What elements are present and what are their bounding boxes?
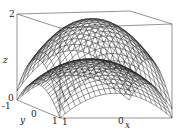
z-axis-label: z (3, 56, 8, 65)
mesh-line (124, 79, 167, 114)
x-tick-1: 1 (62, 118, 68, 127)
mesh-line (17, 59, 60, 109)
y-axis-label: y (20, 116, 25, 125)
x-axis-label: x (125, 121, 130, 130)
mesh-line (27, 75, 70, 110)
mesh-line (60, 93, 172, 118)
y-tick-1: 1 (52, 117, 58, 126)
wireframe-mesh (17, 19, 172, 119)
mesh-line (21, 39, 133, 79)
y-tick-0: 0 (31, 110, 37, 119)
x-tick-0: 0 (118, 117, 124, 126)
mesh-line (17, 83, 60, 118)
mesh-line (22, 79, 65, 114)
surface-plot (0, 0, 177, 130)
y-tick-neg1: -1 (2, 102, 11, 111)
z-tick-2: 2 (9, 10, 15, 19)
mesh-line (58, 88, 170, 113)
mesh-line (50, 36, 162, 77)
